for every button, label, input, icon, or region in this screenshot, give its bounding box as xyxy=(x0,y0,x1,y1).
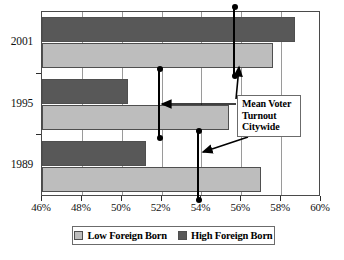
x-tick-label-56: 56% xyxy=(220,201,260,213)
x-tick-label-46: 46% xyxy=(21,201,61,213)
legend-swatch-low-icon xyxy=(74,231,83,240)
callout-line-2: Turnout xyxy=(242,110,297,122)
x-tick-label-52: 52% xyxy=(141,201,181,213)
bar-2001-high xyxy=(42,17,295,42)
bar-2001-low xyxy=(42,43,273,68)
callout-line-3: Citywide xyxy=(242,121,297,133)
x-tick-label-50: 50% xyxy=(101,201,141,213)
marker-dot-1995-top xyxy=(157,66,163,72)
legend: Low Foreign Born High Foreign Born xyxy=(72,226,275,245)
legend-item-low-foreign-born: Low Foreign Born xyxy=(74,230,166,241)
y-tick-2 xyxy=(36,134,41,135)
y-category-label-2001: 2001 xyxy=(0,35,33,47)
bar-chart: 46%48%50%52%54%56%58%60% 200119951989 Me… xyxy=(0,0,344,260)
x-tick-label-48: 48% xyxy=(61,201,101,213)
marker-line-2001 xyxy=(233,7,235,76)
y-tick-1 xyxy=(36,73,41,74)
bar-1989-high xyxy=(42,141,146,166)
legend-label-low: Low Foreign Born xyxy=(87,230,166,241)
bar-1995-high xyxy=(42,79,128,104)
marker-dot-2001-top xyxy=(232,4,238,10)
callout-line-1: Mean Voter xyxy=(242,98,297,110)
y-category-label-1995: 1995 xyxy=(0,97,33,109)
x-tick-label-54: 54% xyxy=(180,201,220,213)
marker-line-1989 xyxy=(197,131,199,200)
bar-1989-low xyxy=(42,167,261,192)
marker-line-1995 xyxy=(158,69,160,138)
y-category-label-1989: 1989 xyxy=(0,158,33,170)
bar-1995-low xyxy=(42,105,229,130)
legend-swatch-high-icon xyxy=(178,231,187,240)
x-tick-label-58: 58% xyxy=(260,201,300,213)
legend-item-high-foreign-born: High Foreign Born xyxy=(178,230,273,241)
mean-turnout-callout: Mean Voter Turnout Citywide xyxy=(237,95,301,137)
legend-label-high: High Foreign Born xyxy=(191,230,273,241)
marker-dot-1995-bottom xyxy=(157,135,163,141)
x-tick-label-60: 60% xyxy=(300,201,340,213)
